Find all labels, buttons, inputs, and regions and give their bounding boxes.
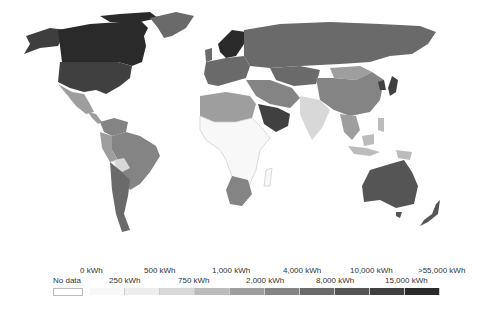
region-new-zealand [420, 200, 440, 226]
legend-bin-swatch [230, 288, 265, 295]
legend-tick-0: 0 kWh [80, 266, 103, 275]
region-saudi-arabia [258, 104, 290, 132]
region-southern-africa [226, 176, 252, 206]
region-southeast-asia [340, 114, 360, 140]
region-philippines-png [378, 118, 412, 160]
legend-bin-swatch [160, 288, 195, 295]
legend-tick-1000: 1,000 kWh [212, 266, 250, 275]
legend-tick-8000: 8,000 kWh [316, 276, 354, 285]
legend-tick-750: 750 kWh [178, 276, 210, 285]
region-canada [58, 20, 148, 66]
region-greenland [150, 12, 194, 38]
region-europe [204, 56, 250, 86]
region-madagascar [264, 168, 272, 186]
region-usa [58, 62, 132, 94]
legend-no-data-label: No data [53, 276, 81, 285]
legend-tick-4000: 4,000 kWh [283, 266, 321, 275]
legend-tick-15000: 15,000 kWh [385, 276, 428, 285]
legend-no-data-swatch [53, 288, 83, 296]
legend-bin-swatch [300, 288, 335, 295]
region-russia [244, 22, 436, 68]
legend-tick-250: 250 kWh [109, 276, 141, 285]
region-uk [205, 48, 212, 62]
region-canada-islands [100, 12, 158, 22]
legend-tick-10000: 10,000 kWh [350, 266, 393, 275]
region-scandinavia [218, 30, 246, 58]
legend-bin-swatch [125, 288, 160, 295]
legend-bin-swatch [195, 288, 230, 295]
region-australia [362, 160, 418, 208]
region-tasmania [396, 212, 402, 218]
world-map [0, 0, 492, 250]
legend-bin-swatch [405, 288, 440, 295]
legend-tick-55000: >55,000 kWh [418, 266, 465, 275]
legend-bin-swatch [370, 288, 405, 295]
region-central-america [88, 112, 102, 124]
legend-tick-2000: 2,000 kWh [246, 276, 284, 285]
region-north-africa [200, 92, 256, 122]
legend-bin-swatch [335, 288, 370, 295]
legend-bin-swatch [90, 288, 125, 295]
legend-tick-500: 500 kWh [144, 266, 176, 275]
legend-bin-swatch [265, 288, 300, 295]
